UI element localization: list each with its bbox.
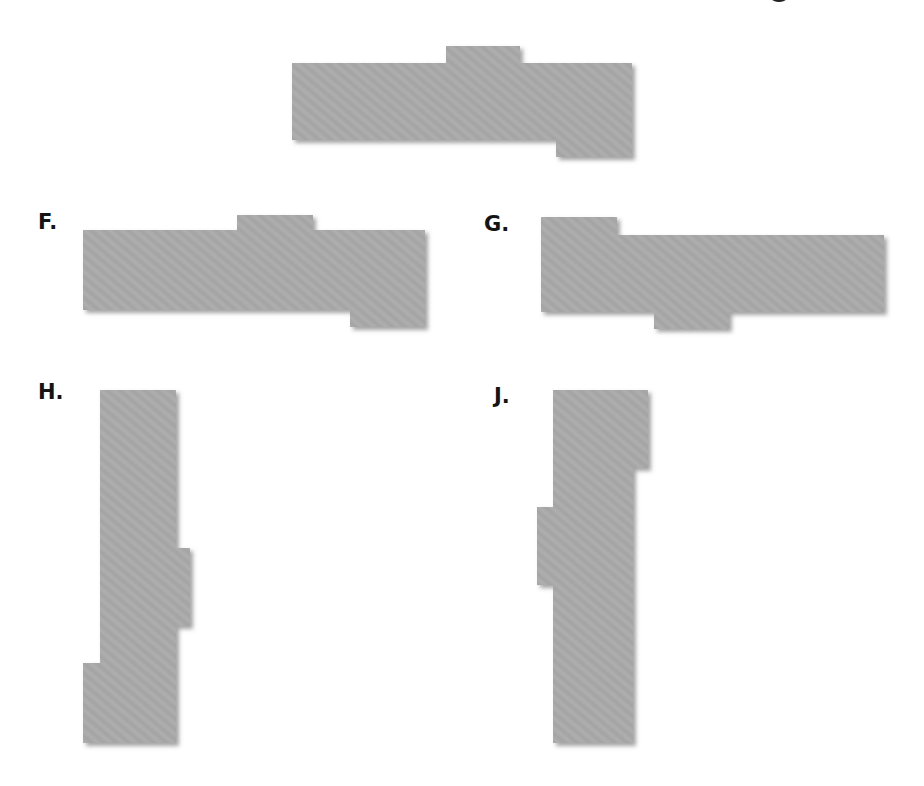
option-h-label[interactable]: H.: [38, 382, 64, 403]
option-h-shape[interactable]: [83, 390, 190, 743]
option-g-shape[interactable]: [541, 217, 884, 329]
option-j-shape[interactable]: [537, 390, 648, 743]
reference-shape: [292, 46, 632, 157]
option-j-label[interactable]: J.: [494, 386, 510, 407]
option-f-label[interactable]: F.: [38, 212, 57, 233]
option-g-label[interactable]: G.: [484, 214, 509, 235]
shape-figure: [0, 0, 924, 786]
option-f-shape[interactable]: [83, 215, 425, 327]
